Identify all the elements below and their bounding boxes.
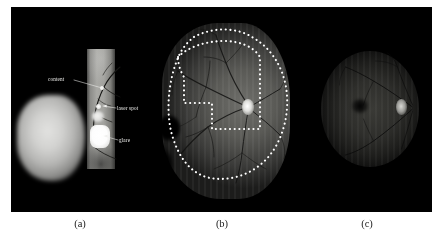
annotation-label-glare: glare: [119, 138, 130, 143]
panel-c-vessel-tree: [307, 7, 432, 212]
annotation-label-content: content: [48, 77, 64, 82]
annotation-label-laser-spot: laser spot: [117, 106, 138, 111]
macula-panel-c: [352, 99, 368, 113]
contour-outer-region: [169, 30, 288, 179]
panel-b-region-contours: [154, 7, 304, 212]
figure-root: content laser spot glare: [0, 0, 443, 245]
caption-panel-b: (b): [202, 219, 242, 230]
caption-panel-c: (c): [347, 219, 387, 230]
figure-panel-strip: content laser spot glare: [11, 7, 432, 212]
panel-a: content laser spot glare: [11, 7, 151, 212]
caption-panel-a: (a): [60, 219, 100, 230]
panel-c: [307, 7, 432, 212]
contour-inner-region: [178, 41, 260, 129]
optic-disc-panel-c: [396, 99, 407, 115]
panel-b: [154, 7, 304, 212]
